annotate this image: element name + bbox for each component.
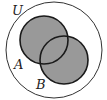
- set-b-label: B: [35, 77, 46, 92]
- set-a-label: A: [13, 57, 23, 72]
- venn-diagram: U A B: [0, 0, 107, 100]
- universe-label: U: [12, 3, 24, 18]
